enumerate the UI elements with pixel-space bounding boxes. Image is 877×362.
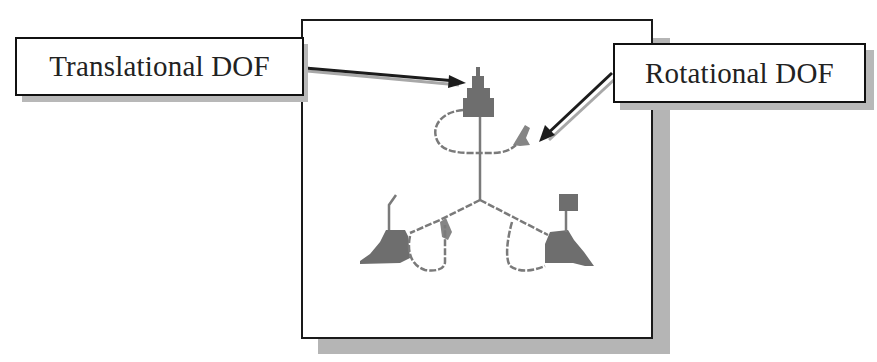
translational-cone-top xyxy=(463,67,494,117)
rotational-dof-label: Rotational DOF xyxy=(645,57,834,90)
translational-cone-right xyxy=(545,230,594,266)
rotation-handle-left xyxy=(389,195,396,230)
translational-dof-label: Translational DOF xyxy=(49,50,270,83)
rotational-dof-callout: Rotational DOF xyxy=(613,43,866,103)
translational-leader xyxy=(305,68,466,88)
rotational-leader xyxy=(539,73,616,142)
translational-cone-left xyxy=(360,230,410,264)
rotation-handle-cube xyxy=(559,194,578,211)
rotational-arrow-head-top xyxy=(513,125,530,146)
translational-dof-callout: Translational DOF xyxy=(15,37,304,96)
triad-axis-right xyxy=(480,200,548,235)
